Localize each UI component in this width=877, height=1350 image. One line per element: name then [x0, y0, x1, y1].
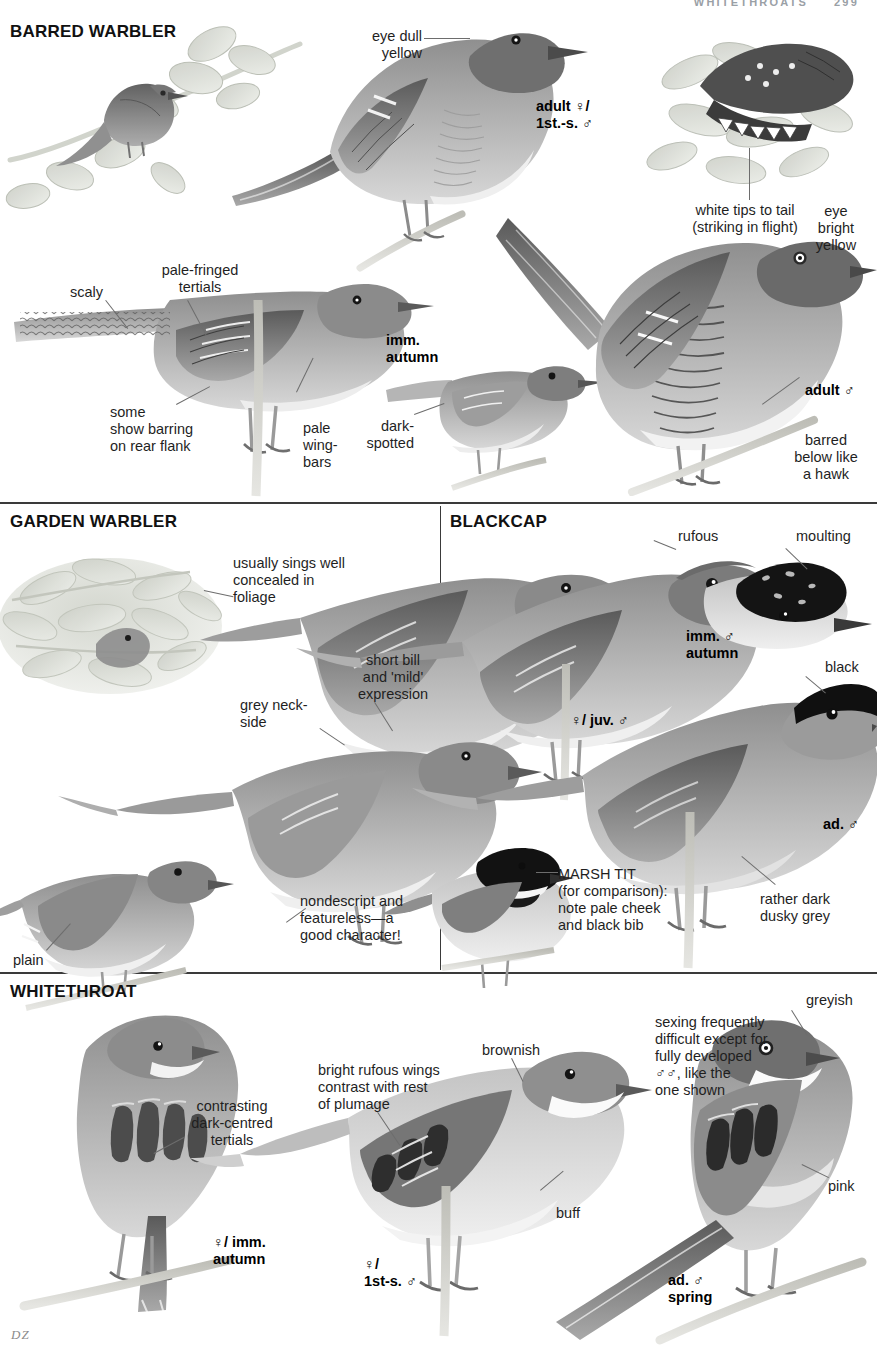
label-female-1st-s-male: ♀/ 1st-s. ♂	[364, 1256, 468, 1290]
label-imm-male-autumn: imm. ♂ autumn	[686, 628, 782, 662]
label-pink: pink	[828, 1178, 855, 1195]
section-title-blackcap: BLACKCAP	[450, 512, 547, 532]
label-grey-neck-side: grey neck- side	[240, 697, 332, 731]
section-title-garden-warbler: GARDEN WARBLER	[10, 512, 177, 532]
label-eye-dull-yellow: eye dull yellow	[316, 28, 422, 62]
label-brownish: brownish	[482, 1042, 540, 1059]
label-ad-male: ad. ♂	[823, 816, 859, 833]
label-eye-bright-yellow: eye bright yellow	[800, 203, 872, 254]
leader-eye-dull-yellow	[424, 38, 470, 39]
leader-white-tips-to-tail	[749, 148, 750, 200]
section-title-whitethroat: WHITETHROAT	[10, 982, 137, 1002]
label-marsh-tit-comparison: MARSH TIT (for comparison): note pale ch…	[558, 866, 698, 934]
label-moulting: moulting	[796, 528, 851, 545]
label-contrasting-dark-centred-tertials: contrasting dark-centred tertials	[182, 1098, 282, 1149]
label-sexing-frequently-difficult: sexing frequently difficult except for f…	[655, 1014, 795, 1100]
label-adult-female-1st-s-male: adult ♀/ 1st.-s. ♂	[536, 98, 656, 132]
label-usually-sings-well-concealed: usually sings well concealed in foliage	[233, 555, 393, 606]
artist-signature: DZ	[11, 1327, 30, 1343]
field-guide-page: WHITETHROATS299	[0, 0, 877, 1350]
label-pale-fringed-tertials: pale-fringed tertials	[148, 262, 252, 296]
label-plain: plain	[13, 952, 44, 969]
label-buff: buff	[556, 1205, 580, 1222]
label-barred-below-like-a-hawk: barred below like a hawk	[778, 432, 874, 483]
label-rather-dark-dusky-grey: rather dark dusky grey	[760, 891, 870, 925]
label-greyish: greyish	[806, 992, 853, 1009]
section-title-barred-warbler: BARRED WARBLER	[10, 22, 176, 42]
label-female-imm-autumn: ♀/ imm. autumn	[213, 1234, 321, 1268]
label-short-bill-mild-expression: short bill and 'mild' expression	[345, 652, 441, 703]
label-black: black	[825, 659, 859, 676]
label-ad-male-spring: ad. ♂ spring	[668, 1272, 758, 1306]
label-imm-autumn: imm. autumn	[386, 332, 478, 366]
label-some-show-barring: some show barring on rear flank	[110, 404, 240, 455]
label-dark-spotted: dark- spotted	[348, 418, 414, 452]
label-adult-male: adult ♂	[805, 382, 855, 399]
label-female-juv-male: ♀/ juv. ♂	[571, 712, 629, 729]
leader-marsh-tit	[536, 872, 558, 873]
label-bright-rufous-wings: bright rufous wings contrast with rest o…	[318, 1062, 478, 1113]
label-scaly: scaly	[70, 284, 103, 301]
label-rufous: rufous	[678, 528, 718, 545]
label-nondescript-featureless: nondescript and featureless—a good chara…	[300, 893, 450, 944]
